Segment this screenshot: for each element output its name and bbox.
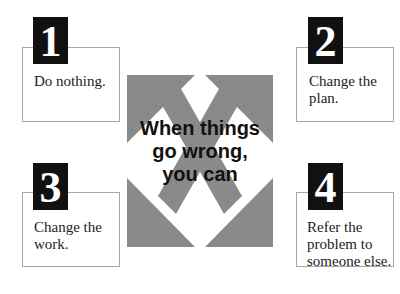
option-4-line-2: problem to [307, 236, 391, 253]
number-tag-1: 1 [33, 17, 68, 64]
option-text-4: Refer the problem to someone else. [307, 219, 391, 270]
option-4-line-3: someone else. [307, 253, 391, 270]
number-tag-4: 4 [308, 163, 343, 210]
option-text-2: Change the plan. [309, 73, 377, 107]
number-tag-2: 2 [308, 17, 343, 64]
option-text-1: Do nothing. [34, 73, 106, 90]
option-text-3: Change the work. [34, 219, 102, 253]
center-title: When things go wrong, you can [130, 117, 270, 186]
title-line-2: go wrong, [130, 140, 270, 163]
option-3-line-1: Change the [34, 219, 102, 236]
option-2-line-2: plan. [309, 90, 377, 107]
option-3-line-2: work. [34, 236, 102, 253]
title-line-3: you can [130, 163, 270, 186]
option-4-line-1: Refer the [307, 219, 391, 236]
option-2-line-1: Change the [309, 73, 377, 90]
title-line-1: When things [130, 117, 270, 140]
number-tag-3: 3 [33, 163, 68, 210]
option-1-line-1: Do nothing. [34, 73, 106, 90]
